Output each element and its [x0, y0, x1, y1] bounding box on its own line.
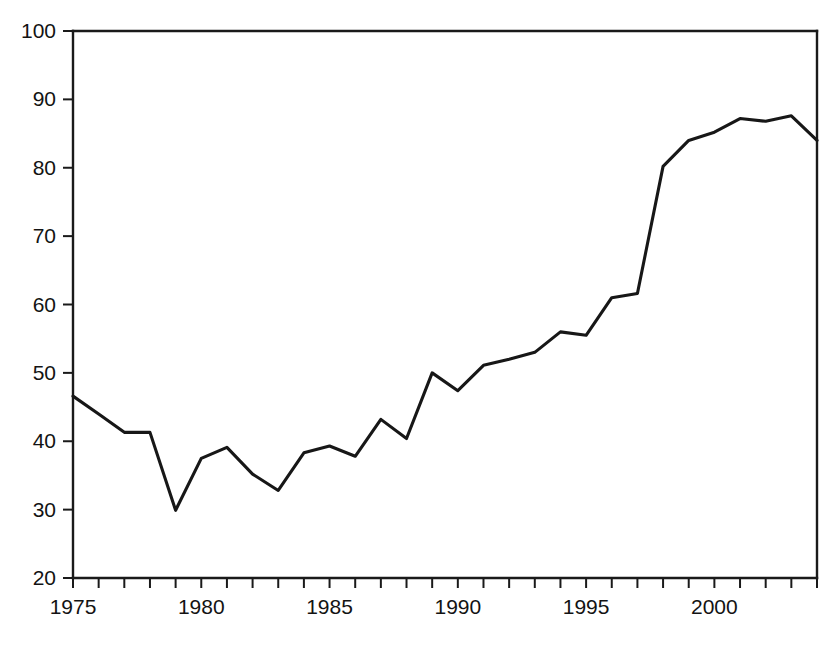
line-chart: 2030405060708090100 19751980198519901995… [0, 0, 832, 646]
y-tick-label: 100 [21, 19, 56, 42]
x-tick-label: 1990 [434, 595, 481, 618]
y-tick-label: 20 [33, 566, 56, 589]
data-series [73, 116, 817, 511]
x-axis-tick-labels: 197519801985199019952000 [50, 595, 738, 618]
chart-container: 2030405060708090100 19751980198519901995… [0, 0, 832, 646]
y-axis-ticks [63, 31, 73, 578]
x-tick-label: 1980 [178, 595, 225, 618]
y-tick-label: 90 [33, 87, 56, 110]
y-tick-label: 50 [33, 361, 56, 384]
y-tick-label: 70 [33, 224, 56, 247]
x-tick-label: 1975 [50, 595, 97, 618]
x-tick-label: 1985 [306, 595, 353, 618]
series-line [73, 116, 817, 511]
y-axis-tick-labels: 2030405060708090100 [21, 19, 56, 589]
x-axis-ticks [73, 578, 817, 588]
y-tick-label: 30 [33, 498, 56, 521]
axis-frame [73, 31, 817, 578]
x-tick-label: 1995 [563, 595, 610, 618]
x-tick-label: 2000 [691, 595, 738, 618]
y-tick-label: 40 [33, 429, 56, 452]
y-tick-label: 80 [33, 156, 56, 179]
y-tick-label: 60 [33, 293, 56, 316]
